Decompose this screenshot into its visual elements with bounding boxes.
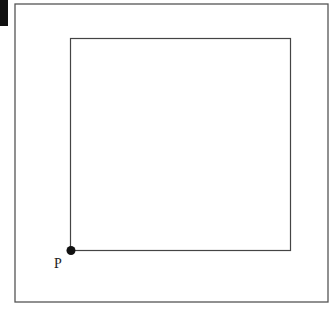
point-p-label: P (54, 256, 62, 271)
point-p-marker (67, 246, 76, 255)
outer-frame (15, 4, 328, 302)
inner-square (71, 39, 291, 251)
diagram-canvas: P (0, 0, 330, 313)
